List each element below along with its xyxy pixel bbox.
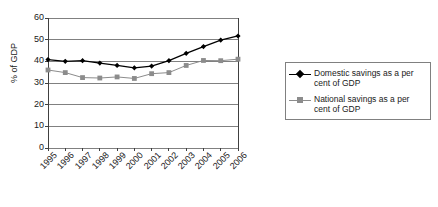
legend-item-label: Domestic savings as a per cent of GDP (314, 68, 426, 88)
data-point-national (167, 70, 172, 75)
y-axis-title: % of GDP (9, 23, 19, 103)
data-point-national (236, 57, 241, 62)
y-tick-label: 60 (22, 13, 44, 22)
y-tick-label: 20 (22, 100, 44, 109)
chart-legend: Domestic savings as a per cent of GDPNat… (285, 62, 431, 120)
data-point-national (115, 75, 120, 80)
legend-marker (296, 70, 304, 78)
data-point-domestic (166, 58, 171, 63)
data-point-domestic (218, 38, 223, 43)
series-line-domestic (48, 36, 238, 68)
data-point-national (46, 68, 51, 73)
legend-diamond-icon (289, 69, 311, 80)
legend-item-label: National savings as a per cent of GDP (314, 94, 426, 114)
data-point-national (63, 70, 68, 75)
data-point-domestic (201, 44, 206, 49)
data-point-domestic (149, 64, 154, 69)
legend-square-icon (289, 95, 311, 106)
y-tick-label: 0 (22, 143, 44, 152)
y-tick-label: 50 (22, 35, 44, 44)
data-point-national (218, 58, 223, 63)
y-axis-tick-labels: 0102030405060 (20, 18, 44, 148)
data-point-domestic (114, 63, 119, 68)
data-point-domestic (132, 65, 137, 70)
data-point-domestic (184, 51, 189, 56)
data-point-domestic (63, 59, 68, 64)
plot-svg (48, 18, 238, 148)
series-line-national (48, 59, 238, 78)
x-axis-tick-labels: 1995199619971998199920002001200220032004… (48, 150, 238, 206)
data-point-national (201, 58, 206, 63)
y-tick-label: 30 (22, 78, 44, 87)
legend-marker (297, 97, 303, 103)
data-point-national (149, 71, 154, 76)
legend-item: National savings as a per cent of GDP (289, 94, 426, 114)
y-tick-label: 40 (22, 56, 44, 65)
legend-item: Domestic savings as a per cent of GDP (289, 68, 426, 88)
data-point-domestic (235, 33, 240, 38)
data-point-national (132, 76, 137, 81)
y-tick-label: 10 (22, 121, 44, 130)
savings-line-chart: % of GDP 0102030405060 19951996199719981… (0, 0, 438, 207)
data-point-domestic (80, 58, 85, 63)
data-point-national (80, 75, 85, 80)
data-point-national (184, 63, 189, 68)
plot-area (48, 18, 238, 148)
data-point-national (97, 76, 102, 81)
